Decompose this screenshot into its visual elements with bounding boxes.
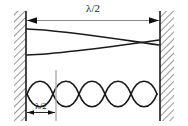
standing-wave-diagram: λ/2 λ/2 bbox=[0, 0, 188, 126]
left-wall bbox=[14, 11, 26, 121]
top-dimension-label: λ/2 bbox=[86, 2, 100, 14]
left-wall-hatching bbox=[14, 11, 26, 121]
bottom-dimension-label: λ/2 bbox=[35, 101, 46, 111]
right-wall-hatching bbox=[160, 11, 174, 121]
right-wall bbox=[160, 11, 174, 121]
